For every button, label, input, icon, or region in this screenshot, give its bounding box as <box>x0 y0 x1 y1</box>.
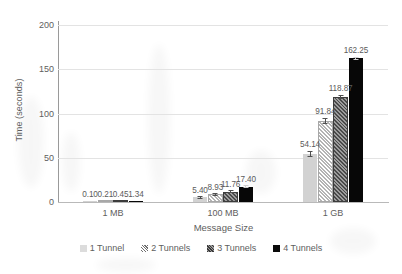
bar-slot <box>98 25 113 202</box>
y-tick-label: 50 <box>28 153 54 163</box>
legend-label: 3 Tunnels <box>217 243 256 253</box>
x-axis-title: Message Size <box>58 222 389 233</box>
y-axis-title: Time (seconds) <box>14 50 24 170</box>
data-label: 54.14 <box>300 140 320 149</box>
legend-item[interactable]: 3 Tunnels <box>207 243 256 253</box>
bar[interactable] <box>193 197 208 202</box>
legend-swatch-icon <box>80 245 87 252</box>
bar-chart: Time (seconds) 050100150200 0.100.210.45… <box>0 0 402 274</box>
bar[interactable] <box>318 121 333 202</box>
y-tick-label: 100 <box>28 109 54 119</box>
x-tick-label: 100 MB <box>207 208 238 218</box>
legend-label: 2 Tunnels <box>151 243 190 253</box>
data-label: 17.40 <box>236 175 256 184</box>
legend-item[interactable]: 1 Tunnel <box>80 243 125 253</box>
bar-slot <box>208 25 223 202</box>
data-label: 1.34 <box>128 190 144 199</box>
data-label: 0.10 <box>82 190 98 199</box>
x-axis-line <box>58 202 389 203</box>
bar[interactable] <box>303 154 318 202</box>
bar-slot <box>129 25 144 202</box>
legend-item[interactable]: 4 Tunnels <box>273 243 322 253</box>
y-tick-label: 0 <box>28 197 54 207</box>
bar[interactable] <box>129 201 144 202</box>
scan-artifact <box>96 258 156 272</box>
bar[interactable] <box>223 192 238 202</box>
y-tick-label: 150 <box>28 64 54 74</box>
bar[interactable] <box>83 201 98 202</box>
legend-swatch-icon <box>273 245 280 252</box>
y-tick-label: 200 <box>28 20 54 30</box>
chart-legend: 1 Tunnel2 Tunnels3 Tunnels4 Tunnels <box>0 243 402 253</box>
data-label: 91.84 <box>315 107 335 116</box>
data-label: 162.25 <box>344 46 368 55</box>
bar-slot <box>83 25 98 202</box>
data-label: 5.40 <box>192 186 208 195</box>
x-tick-label: 1 MB <box>102 208 123 218</box>
legend-swatch-icon <box>141 245 148 252</box>
x-tick-label: 1 GB <box>323 208 344 218</box>
legend-label: 1 Tunnel <box>90 243 125 253</box>
bar[interactable] <box>349 58 364 202</box>
bar[interactable] <box>333 97 348 202</box>
plot-area: 0.100.210.451.345.408.9311.7617.4054.149… <box>58 25 388 202</box>
data-label: 118.87 <box>329 84 353 93</box>
bar[interactable] <box>239 187 254 202</box>
y-axis-ticks: 050100150200 <box>24 0 54 274</box>
data-label: 0.45 <box>113 190 129 199</box>
bar-group <box>83 25 143 202</box>
legend-label: 4 Tunnels <box>283 243 322 253</box>
legend-swatch-icon <box>207 245 214 252</box>
bar-slot <box>113 25 128 202</box>
bar[interactable] <box>98 200 113 202</box>
bar[interactable] <box>113 200 128 202</box>
legend-item[interactable]: 2 Tunnels <box>141 243 190 253</box>
data-label: 0.21 <box>98 190 114 199</box>
bar[interactable] <box>208 194 223 202</box>
bar-slot <box>193 25 208 202</box>
